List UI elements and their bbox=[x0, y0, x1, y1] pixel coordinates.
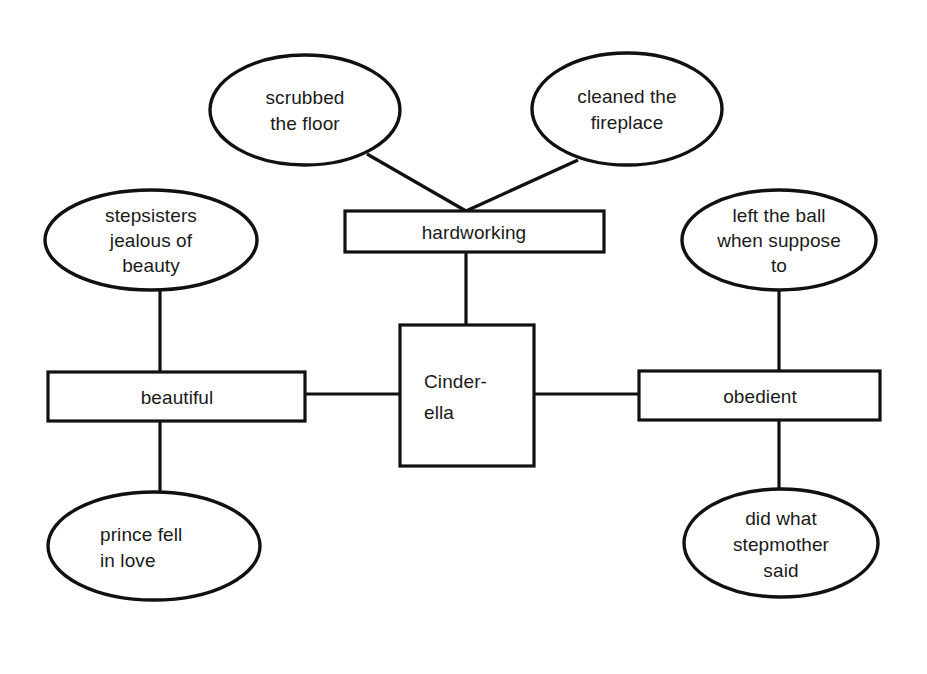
node-cinderella[interactable]: Cinder- ella bbox=[400, 325, 534, 466]
edge-cleaned-the-fireplace-to-hardworking bbox=[466, 160, 578, 211]
node-stepsisters-jealous-of-beauty[interactable]: stepsisters jealous of beauty bbox=[45, 190, 257, 290]
node-left-the-ball-when-suppose-to[interactable]: left the ball when suppose to bbox=[682, 190, 876, 290]
node-obedient[interactable]: obedient bbox=[639, 371, 880, 420]
node-did-what-stepmother-said[interactable]: did what stepmother said bbox=[684, 489, 878, 597]
node-hardworking[interactable]: hardworking bbox=[345, 211, 604, 252]
label-scrubbed-the-floor-line2: the floor bbox=[270, 113, 340, 134]
node-cleaned-the-fireplace[interactable]: cleaned the fireplace bbox=[532, 53, 722, 165]
node-prince-fell-in-love[interactable]: prince fell in love bbox=[48, 492, 260, 600]
label-cleaned-the-fireplace-line1: cleaned the bbox=[577, 86, 676, 107]
edge-scrubbed-the-floor-to-hardworking bbox=[367, 154, 466, 211]
label-stepsisters-jealous-of-beauty-line1: stepsisters bbox=[105, 205, 197, 226]
label-obedient: obedient bbox=[723, 386, 797, 407]
label-left-the-ball-when-suppose-to-line2: when suppose bbox=[716, 230, 841, 251]
concept-map-canvas: scrubbed the floor cleaned the fireplace… bbox=[0, 0, 927, 674]
label-cleaned-the-fireplace-line2: fireplace bbox=[591, 112, 664, 133]
node-beautiful[interactable]: beautiful bbox=[48, 372, 305, 421]
ellipse-scrubbed-the-floor[interactable] bbox=[210, 55, 400, 165]
label-hardworking: hardworking bbox=[422, 222, 527, 243]
label-prince-fell-in-love-line2: in love bbox=[100, 550, 156, 571]
label-prince-fell-in-love-line1: prince fell bbox=[100, 524, 182, 545]
label-cinderella-line2: ella bbox=[424, 402, 454, 423]
label-stepsisters-jealous-of-beauty-line3: beauty bbox=[122, 255, 180, 276]
label-did-what-stepmother-said-line3: said bbox=[763, 560, 798, 581]
label-beautiful: beautiful bbox=[141, 387, 214, 408]
ellipse-cleaned-the-fireplace[interactable] bbox=[532, 53, 722, 165]
ellipse-prince-fell-in-love[interactable] bbox=[48, 492, 260, 600]
label-did-what-stepmother-said-line2: stepmother bbox=[733, 534, 830, 555]
label-cinderella-line1: Cinder- bbox=[424, 371, 487, 392]
rect-cinderella[interactable] bbox=[400, 325, 534, 466]
label-left-the-ball-when-suppose-to-line1: left the ball bbox=[732, 205, 825, 226]
concept-map-diagram: scrubbed the floor cleaned the fireplace… bbox=[0, 0, 927, 674]
label-scrubbed-the-floor-line1: scrubbed bbox=[266, 87, 345, 108]
label-did-what-stepmother-said-line1: did what bbox=[745, 508, 817, 529]
node-scrubbed-the-floor[interactable]: scrubbed the floor bbox=[210, 55, 400, 165]
label-left-the-ball-when-suppose-to-line3: to bbox=[771, 255, 787, 276]
label-stepsisters-jealous-of-beauty-line2: jealous of bbox=[109, 230, 193, 251]
